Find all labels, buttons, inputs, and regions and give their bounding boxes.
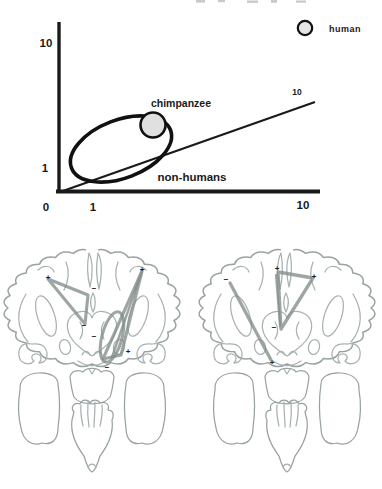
marker-minus: − bbox=[92, 332, 97, 341]
origin-label: 0 bbox=[43, 201, 49, 213]
marker-minus: − bbox=[92, 284, 97, 293]
legend-human-label: human bbox=[329, 24, 361, 34]
marker-plus: + bbox=[126, 347, 131, 356]
y-tick-10: 10 bbox=[40, 37, 53, 49]
marker-plus: + bbox=[46, 273, 51, 282]
marker-minus: − bbox=[272, 323, 277, 332]
x-tick-1: 1 bbox=[90, 201, 97, 213]
brain-section-left bbox=[4, 244, 180, 472]
figure-canvas: 10 chimpanzee non-humans 10 1 0 1 10 hum… bbox=[0, 0, 382, 489]
chimpanzee-label: chimpanzee bbox=[151, 97, 211, 109]
y-tick-1: 1 bbox=[42, 162, 49, 174]
right-long-projection-line bbox=[230, 283, 271, 360]
legend-human-marker bbox=[298, 21, 312, 35]
cropped-text-remnant bbox=[196, 0, 306, 3]
x-tick-10: 10 bbox=[297, 199, 310, 211]
diagonal-tick-label: 10 bbox=[292, 87, 302, 97]
schematic-plot: 10 chimpanzee non-humans 10 1 0 1 10 hum… bbox=[40, 21, 361, 213]
marker-plus: + bbox=[140, 265, 145, 274]
marker-minus: − bbox=[82, 321, 87, 330]
legend: human bbox=[298, 21, 361, 35]
marker-minus: − bbox=[105, 363, 110, 372]
chimpanzee-point bbox=[141, 113, 166, 138]
left-triangle-inner-line bbox=[112, 271, 142, 357]
non-humans-label: non-humans bbox=[158, 171, 227, 183]
figure-svg: 10 chimpanzee non-humans 10 1 0 1 10 hum… bbox=[0, 0, 382, 489]
marker-plus: + bbox=[312, 272, 317, 281]
left-cortico-thalamic-triangle bbox=[48, 279, 88, 324]
marker-plus: + bbox=[270, 358, 275, 367]
polarity-markers-right: − + + − + bbox=[224, 264, 317, 367]
marker-minus: − bbox=[224, 275, 229, 284]
marker-plus: + bbox=[275, 264, 280, 273]
